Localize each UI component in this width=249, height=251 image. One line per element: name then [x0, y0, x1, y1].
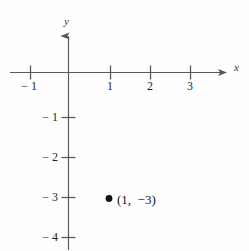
y-tick-label-minus1: − 1 [18, 111, 58, 123]
y-axis-label: y [64, 16, 69, 27]
x-tick-label-3: 3 [187, 80, 193, 92]
coordinate-plane-canvas [0, 0, 249, 251]
y-tick-label-minus2: − 2 [18, 151, 58, 163]
plotted-point-marker [106, 195, 113, 202]
x-tick-label-2: 2 [147, 80, 153, 92]
x-axis-label: x [234, 62, 239, 73]
point-coordinate-label: (1, −3) [117, 193, 156, 206]
x-tick-label-minus1: − 1 [21, 80, 37, 92]
x-tick-label-1: 1 [107, 80, 113, 92]
coordinate-plane-figure: x y − 1 1 2 3 − 1 − 2 − 3 − 4 (1, −3) [0, 0, 249, 251]
y-tick-label-minus3: − 3 [18, 191, 58, 203]
y-tick-label-minus4: − 4 [18, 231, 58, 243]
